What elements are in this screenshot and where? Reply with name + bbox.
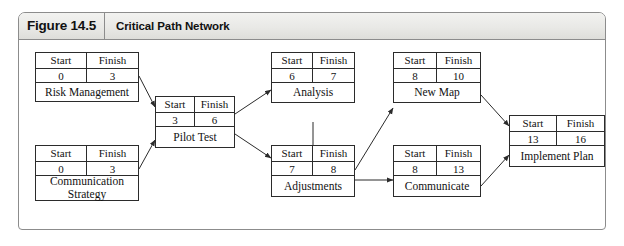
node-header: Start Finish — [156, 97, 234, 112]
node-header-values: 0 3 — [36, 68, 138, 83]
edge-risk-management-to-pilot-test — [139, 76, 155, 107]
finish-header: Finish — [313, 146, 354, 161]
node-header: Start Finish — [272, 146, 354, 161]
start-header: Start — [156, 97, 195, 112]
start-value: 13 — [510, 132, 557, 145]
node-header-titles: Start Finish — [36, 146, 138, 161]
node-header-titles: Start Finish — [36, 53, 138, 68]
node-header: Start Finish — [36, 53, 138, 68]
node-analysis[interactable]: Start Finish 6 7 Analysis — [271, 52, 355, 103]
finish-header: Finish — [557, 116, 604, 131]
figure-caption-label: Critical Path Network — [116, 13, 230, 39]
edge-communicate-to-implement-plan — [481, 155, 509, 186]
node-header-titles: Start Finish — [272, 146, 354, 161]
node-header-values: 0 3 — [36, 161, 138, 176]
start-header: Start — [272, 146, 313, 161]
finish-header: Finish — [87, 146, 138, 161]
edge-adjustments-to-new-map — [355, 108, 393, 170]
node-communicate[interactable]: Start Finish 8 13 Communicate — [393, 145, 481, 197]
edge-pilot-test-to-adjustments — [235, 134, 271, 158]
edge-communication-strategy-to-pilot-test — [139, 140, 155, 169]
finish-value: 8 — [313, 162, 354, 175]
finish-header: Finish — [195, 97, 234, 112]
node-header-values: 8 13 — [394, 161, 480, 176]
node-header: Start Finish — [510, 116, 604, 131]
start-value: 0 — [36, 162, 87, 175]
node-header-titles: Start Finish — [510, 116, 604, 131]
node-header: Start Finish — [394, 146, 480, 161]
node-header-titles: Start Finish — [394, 146, 480, 161]
node-header: Start Finish — [36, 146, 138, 161]
node-header-values: 8 10 — [394, 68, 480, 83]
start-value: 6 — [272, 69, 313, 82]
node-implement-plan[interactable]: Start Finish 13 16 Implement Plan — [509, 115, 605, 167]
finish-value: 10 — [437, 69, 480, 82]
finish-value: 16 — [557, 132, 604, 145]
finish-value: 3 — [87, 69, 138, 82]
figure-frame: Figure 14.5 Critical Path Network — [18, 12, 606, 230]
node-header-values: 13 16 — [510, 131, 604, 146]
finish-header: Finish — [437, 53, 480, 68]
node-label: Analysis — [272, 83, 354, 102]
finish-header: Finish — [87, 53, 138, 68]
start-header: Start — [272, 53, 313, 68]
start-value: 8 — [394, 69, 437, 82]
node-label: Communication Strategy — [36, 176, 138, 200]
node-new-map[interactable]: Start Finish 8 10 New Map — [393, 52, 481, 103]
node-header-values: 3 6 — [156, 112, 234, 127]
start-header: Start — [510, 116, 557, 131]
start-header: Start — [36, 146, 87, 161]
node-pilot-test[interactable]: Start Finish 3 6 Pilot Test — [155, 96, 235, 148]
node-header: Start Finish — [272, 53, 354, 68]
node-header-titles: Start Finish — [272, 53, 354, 68]
start-value: 8 — [394, 162, 437, 175]
finish-value: 13 — [437, 162, 480, 175]
start-header: Start — [394, 53, 437, 68]
node-communication-strategy[interactable]: Start Finish 0 3 Communication Strategy — [35, 145, 139, 201]
node-header: Start Finish — [394, 53, 480, 68]
start-header: Start — [394, 146, 437, 161]
finish-value: 6 — [195, 113, 234, 126]
node-header-values: 7 8 — [272, 161, 354, 176]
edge-new-map-to-implement-plan — [481, 95, 509, 126]
start-value: 0 — [36, 69, 87, 82]
node-label: Pilot Test — [156, 127, 234, 147]
node-label: Adjustments — [272, 176, 354, 196]
node-label: Implement Plan — [510, 146, 604, 166]
critical-path-network-diagram: Start Finish 0 3 Risk Management Start F… — [19, 40, 605, 229]
node-label: Communicate — [394, 176, 480, 196]
start-header: Start — [36, 53, 87, 68]
node-adjustments[interactable]: Start Finish 7 8 Adjustments — [271, 145, 355, 197]
node-label: Risk Management — [36, 83, 138, 101]
finish-value: 3 — [87, 162, 138, 175]
edge-pilot-test-to-analysis — [235, 90, 271, 114]
node-risk-management[interactable]: Start Finish 0 3 Risk Management — [35, 52, 139, 102]
node-header-titles: Start Finish — [156, 97, 234, 112]
node-label: New Map — [394, 83, 480, 102]
start-value: 7 — [272, 162, 313, 175]
node-header-values: 6 7 — [272, 68, 354, 83]
finish-value: 7 — [313, 69, 354, 82]
figure-number-label: Figure 14.5 — [19, 13, 105, 39]
start-value: 3 — [156, 113, 195, 126]
finish-header: Finish — [437, 146, 480, 161]
finish-header: Finish — [313, 53, 354, 68]
figure-header: Figure 14.5 Critical Path Network — [19, 13, 605, 40]
node-header-titles: Start Finish — [394, 53, 480, 68]
